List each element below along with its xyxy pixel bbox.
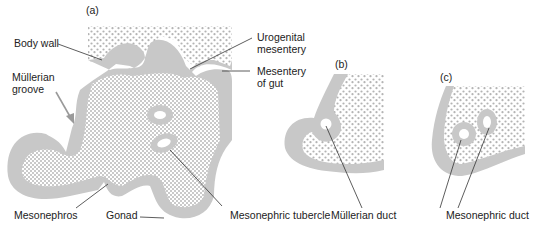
panel-c-label: (c) [440, 71, 452, 83]
panel-b-mullerian-duct-lumen [321, 119, 332, 130]
label-urogenital-mesentery-line2: mesentery [257, 43, 307, 55]
embryo-cross-section-diagram: (a) Body wall Müllerian groove Urogenita… [0, 0, 538, 231]
panel-b-label: (b) [335, 58, 348, 70]
panel-c-mullerian-duct-lumen [459, 129, 469, 139]
label-urogenital-mesentery-line1: Urogenital [257, 31, 305, 43]
label-mesentery-of-gut-line2: of gut [257, 77, 283, 89]
label-mesonephric-duct: Mesonephric duct [446, 209, 529, 221]
label-mesentery-of-gut-line1: Mesentery [257, 65, 307, 77]
panel-c-mesonephric-duct-lumen [483, 116, 491, 128]
panel-c: (c) Mesonephric duct [432, 71, 529, 221]
label-mullerian-groove-line2: groove [12, 83, 44, 95]
label-mullerian-duct: Müllerian duct [331, 209, 396, 221]
label-gonad: Gonad [106, 209, 138, 221]
panel-b: (b) Müllerian duct [285, 58, 397, 221]
panel-a-label: (a) [86, 4, 99, 16]
label-body-wall: Body wall [14, 37, 59, 49]
gonad-leader [140, 217, 164, 218]
label-mullerian-groove-line1: Müllerian [12, 71, 55, 83]
mullerian-groove-arrowhead [66, 113, 74, 124]
label-mesonephros: Mesonephros [14, 209, 78, 221]
label-mesonephric-tubercle: Mesonephric tubercle [230, 209, 331, 221]
mesonephric-tubule-upper-lumen [154, 111, 166, 119]
panel-a: (a) Body wall Müllerian groove Urogenita… [7, 4, 330, 221]
